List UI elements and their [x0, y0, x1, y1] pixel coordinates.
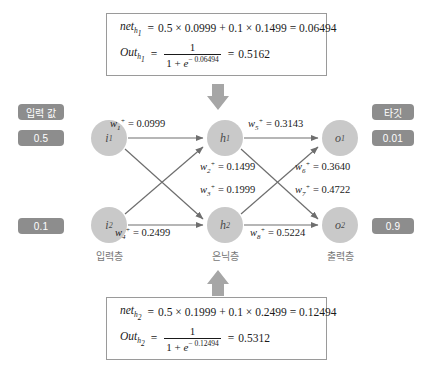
weight-label-w7: w7+ = 0.4722 — [295, 182, 350, 198]
target-value-2: 0.9 — [372, 218, 414, 234]
weight-label-w2: w2+ = 0.1499 — [200, 159, 255, 175]
weight-label-w4: w4+ = 0.2499 — [115, 225, 170, 241]
input-value-1: 0.5 — [18, 130, 64, 146]
formula-out-h2: Outh2 = 1 1 + e− 0.12494 = 0.5312 — [120, 326, 313, 353]
weight-label-w1: w1+ = 0.0999 — [110, 116, 165, 132]
formula-box-h1: neth1 = 0.5 × 0.0999 + 0.1 × 0.1499 = 0.… — [106, 13, 327, 76]
formula-out-h2-result: 0.5312 — [238, 333, 270, 345]
diagram-canvas: neth1 = 0.5 × 0.0999 + 0.1 × 0.1499 = 0.… — [0, 0, 428, 373]
formula-net-h1-expr: 0.5 × 0.0999 + 0.1 × 0.1499 = 0.06494 — [158, 23, 336, 35]
layer-caption-output: 출력층 — [305, 248, 375, 263]
formula-box-h2: neth2 = 0.5 × 0.1999 + 0.1 × 0.2499 = 0.… — [106, 297, 327, 360]
formula-out-h1-result: 0.5162 — [238, 49, 270, 61]
formula-out-h1: Outh1 = 1 1 + e− 0.06494 = 0.5162 — [120, 42, 313, 69]
block-arrow-down — [207, 270, 229, 296]
target-value-1: 0.01 — [372, 130, 414, 146]
sigmoid-fraction: 1 1 + e− 0.06494 — [164, 42, 221, 69]
layer-caption-input: 입력층 — [74, 248, 144, 263]
input-values-label: 입력 값 — [18, 104, 64, 120]
weight-label-w8: w8+ = 0.5224 — [250, 225, 305, 241]
neuron-h1: h1 — [207, 120, 243, 156]
formula-net-h2: neth2 = 0.5 × 0.1999 + 0.1 × 0.2499 = 0.… — [120, 305, 313, 321]
layer-caption-hidden: 은닉층 — [190, 248, 260, 263]
formula-net-h2-expr: 0.5 × 0.1999 + 0.1 × 0.2499 = 0.12494 — [158, 307, 336, 319]
neuron-o2: o2 — [322, 207, 358, 243]
block-arrow-up — [207, 84, 229, 110]
neuron-o1: o1 — [322, 120, 358, 156]
neuron-h2: h2 — [207, 207, 243, 243]
input-value-2: 0.1 — [18, 218, 64, 234]
sigmoid-fraction: 1 1 + e− 0.12494 — [164, 326, 221, 353]
weight-label-w6: w6+ = 0.3640 — [295, 159, 350, 175]
weight-label-w3: w3+ = 0.1999 — [200, 182, 255, 198]
formula-net-h1: neth1 = 0.5 × 0.0999 + 0.1 × 0.1499 = 0.… — [120, 21, 313, 37]
weight-label-w5: w5+ = 0.3143 — [248, 116, 303, 132]
target-values-label: 타깃 — [372, 104, 414, 120]
